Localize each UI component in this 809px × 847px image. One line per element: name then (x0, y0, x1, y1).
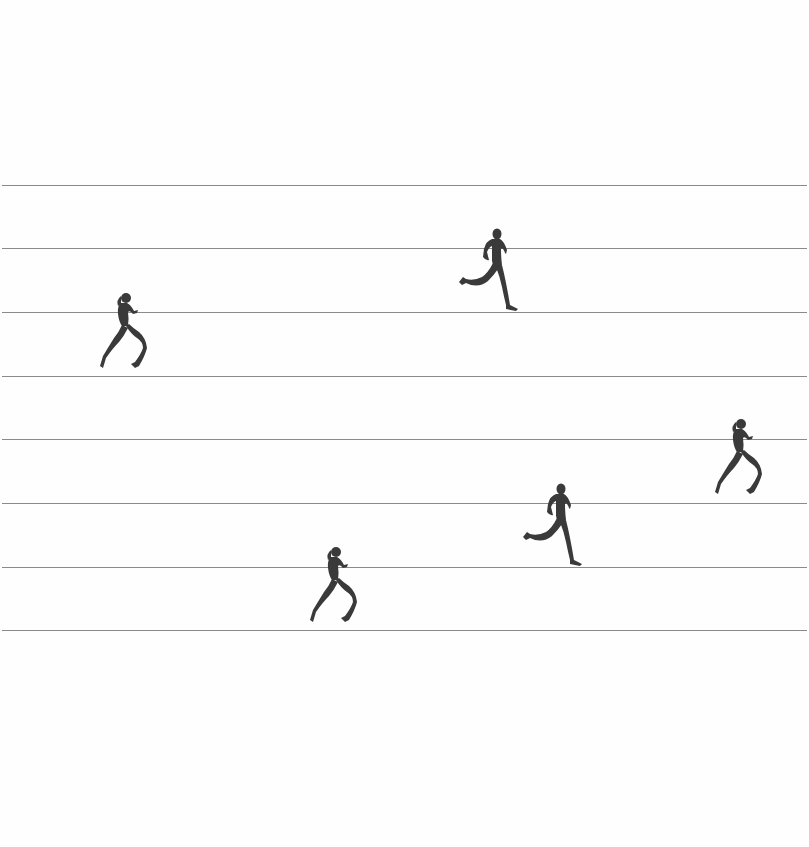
track-canvas (0, 0, 809, 847)
male-runner-icon (456, 227, 521, 313)
female-runner-icon (712, 418, 762, 502)
lane-line-6 (2, 503, 807, 504)
lane-line-5 (2, 439, 807, 440)
lane-line-7 (2, 567, 807, 568)
male-runner-icon (520, 482, 585, 568)
female-runner-icon (97, 292, 147, 376)
lane-line-8 (2, 630, 807, 631)
lane-line-2 (2, 248, 807, 249)
lane-line-1 (2, 185, 807, 186)
female-runner-icon (307, 546, 357, 630)
lane-line-4 (2, 376, 807, 377)
